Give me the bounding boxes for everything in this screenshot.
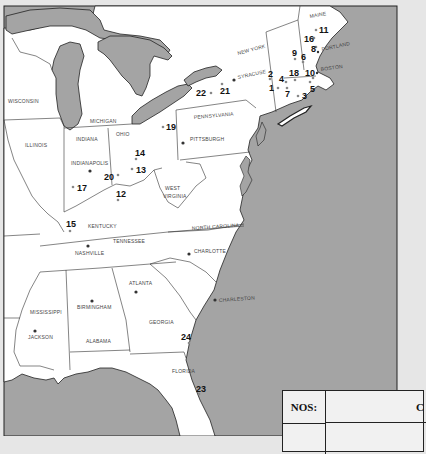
- marker-10[interactable]: 10: [305, 68, 315, 79]
- table-header-c: C: [326, 391, 426, 423]
- svg-text:24: 24: [181, 332, 191, 342]
- svg-text:INDIANAPOLIS: INDIANAPOLIS: [71, 160, 109, 166]
- svg-text:9: 9: [292, 48, 297, 58]
- svg-text:13: 13: [136, 165, 146, 175]
- svg-text:WISCONSIN: WISCONSIN: [8, 98, 39, 104]
- svg-text:CHARLOTTE: CHARLOTTE: [194, 248, 227, 254]
- legend-table: NOS: C: [282, 390, 424, 452]
- svg-text:20: 20: [104, 172, 114, 182]
- svg-text:6: 6: [301, 52, 306, 62]
- svg-text:4: 4: [279, 74, 284, 84]
- svg-text:2: 2: [268, 69, 273, 79]
- svg-text:NASHVILLE: NASHVILLE: [75, 250, 105, 256]
- table-header-nos: NOS:: [283, 391, 326, 424]
- svg-text:21: 21: [220, 86, 230, 96]
- svg-text:22: 22: [196, 88, 206, 98]
- svg-text:19: 19: [166, 122, 176, 132]
- svg-text:8: 8: [311, 44, 316, 54]
- svg-text:VIRGINIA: VIRGINIA: [163, 193, 187, 199]
- table-cell: [283, 424, 326, 454]
- svg-text:10: 10: [305, 68, 315, 78]
- svg-text:5: 5: [310, 84, 315, 94]
- svg-text:12: 12: [116, 189, 126, 199]
- svg-text:11: 11: [319, 25, 329, 35]
- svg-text:14: 14: [135, 148, 145, 158]
- svg-text:FLORIDA: FLORIDA: [172, 368, 196, 374]
- marker-2[interactable]: 2: [268, 69, 273, 80]
- svg-text:3: 3: [302, 91, 307, 101]
- svg-text:ALABAMA: ALABAMA: [86, 338, 111, 344]
- svg-text:ATLANTA: ATLANTA: [129, 280, 153, 286]
- svg-text:BIRMINGHAM: BIRMINGHAM: [77, 304, 112, 310]
- svg-text:MICHIGAN: MICHIGAN: [90, 118, 117, 124]
- svg-text:JACKSON: JACKSON: [28, 334, 53, 340]
- marker-23[interactable]: 23: [196, 384, 206, 395]
- svg-text:23: 23: [196, 384, 206, 394]
- svg-text:15: 15: [66, 219, 76, 229]
- svg-text:INDIANA: INDIANA: [76, 136, 98, 142]
- svg-text:16: 16: [304, 34, 314, 44]
- svg-text:WEST: WEST: [165, 185, 180, 191]
- svg-text:17: 17: [77, 183, 87, 193]
- svg-text:18: 18: [289, 68, 299, 78]
- svg-text:ILLINOIS: ILLINOIS: [25, 142, 48, 148]
- svg-text:OHIO: OHIO: [116, 131, 130, 137]
- svg-text:PITTSBURGH: PITTSBURGH: [190, 136, 224, 142]
- svg-text:GEORGIA: GEORGIA: [149, 319, 174, 325]
- marker-6[interactable]: 6: [301, 52, 306, 63]
- svg-text:7: 7: [285, 89, 290, 99]
- svg-text:KENTUCKY: KENTUCKY: [88, 223, 117, 229]
- svg-text:TENNESSEE: TENNESSEE: [113, 238, 146, 244]
- marker-16[interactable]: 16: [304, 34, 315, 44]
- svg-text:MISSISSIPPI: MISSISSIPPI: [30, 309, 62, 315]
- svg-text:1: 1: [269, 83, 274, 93]
- marker-7[interactable]: 7: [285, 87, 290, 99]
